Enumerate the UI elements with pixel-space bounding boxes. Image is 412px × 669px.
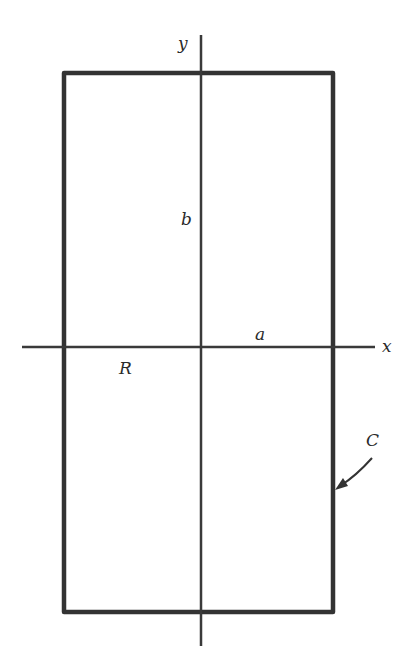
x-axis-label: x <box>382 336 392 356</box>
region-label: R <box>118 358 132 378</box>
y-axis-label: y <box>177 33 188 53</box>
arrowhead-icon <box>335 478 348 490</box>
rectangle-region-diagram: y x b a R C <box>0 0 412 669</box>
half-width-label: a <box>255 324 265 344</box>
boundary-label: C <box>366 430 379 450</box>
boundary-rectangle <box>64 73 333 612</box>
half-height-label: b <box>181 209 192 229</box>
